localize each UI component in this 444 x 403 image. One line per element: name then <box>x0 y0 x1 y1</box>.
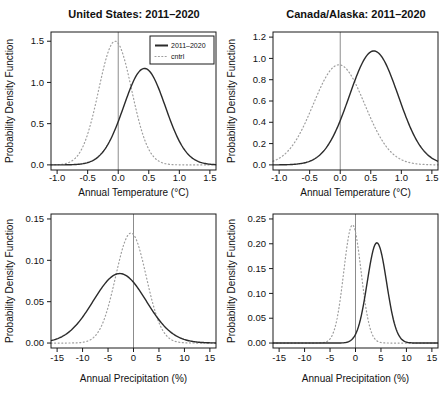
y-tick-label: 0.00 <box>248 337 267 348</box>
density-curve-solid <box>51 68 216 164</box>
panel-canada-alaska-temperature: Canada/Alaska: 2011–2020 -1.0-0.50.00.51… <box>222 0 444 200</box>
x-tick-label: 0.0 <box>334 172 347 183</box>
y-tick-label: 1.2 <box>253 31 266 42</box>
chart-canada-alaska-precipitation: -15-10-50510150.000.050.100.150.200.25An… <box>222 200 444 403</box>
y-tick-label: 0.10 <box>248 288 267 299</box>
x-tick-label: 15 <box>427 352 438 363</box>
y-tick-label: 0.6 <box>253 95 266 106</box>
x-tick-label: 1.0 <box>173 172 186 183</box>
x-tick-label: 10 <box>179 352 190 363</box>
x-tick-label: -0.5 <box>301 172 317 183</box>
chart-canada-alaska-temperature: -1.0-0.50.00.51.01.50.00.20.40.60.81.01.… <box>222 0 444 200</box>
legend-label: 2011–2020 <box>171 42 206 49</box>
x-tick-label: 1.5 <box>425 172 438 183</box>
y-tick-label: 0.8 <box>253 74 266 85</box>
x-tick-label: 0.0 <box>112 172 125 183</box>
density-curve-solid <box>273 51 438 165</box>
pdf-comparison-figure: United States: 2011–2020 -1.0-0.50.00.51… <box>0 0 444 403</box>
x-tick-label: 5 <box>156 352 161 363</box>
panel-us-temperature: United States: 2011–2020 -1.0-0.50.00.51… <box>0 0 222 200</box>
x-tick-label: -1.0 <box>271 172 287 183</box>
y-tick-label: 0.00 <box>26 337 45 348</box>
x-tick-label: -15 <box>272 352 286 363</box>
panel-canada-alaska-precipitation: -15-10-50510150.000.050.100.150.200.25An… <box>222 200 444 403</box>
y-axis-label: Probability Density Function <box>4 39 15 163</box>
x-tick-label: 1.5 <box>203 172 216 183</box>
y-tick-label: 0.0 <box>253 159 266 170</box>
y-tick-label: 0.10 <box>26 255 45 266</box>
x-tick-label: 0 <box>131 352 136 363</box>
plot-box <box>273 32 438 170</box>
y-tick-label: 0.0 <box>31 159 44 170</box>
y-tick-label: 0.4 <box>253 116 266 127</box>
y-tick-label: 0.5 <box>31 118 44 129</box>
x-axis-label: Annual Precipitation (%) <box>80 373 187 384</box>
x-tick-label: 1.0 <box>395 172 408 183</box>
x-axis-label: Annual Temperature (°C) <box>78 187 189 198</box>
y-tick-label: 1.5 <box>31 35 44 46</box>
y-tick-label: 0.20 <box>248 238 267 249</box>
panel-us-precipitation: -15-10-50510150.000.050.100.15Annual Pre… <box>0 200 222 403</box>
y-tick-label: 1.0 <box>253 53 266 64</box>
x-tick-label: -0.5 <box>79 172 95 183</box>
x-tick-label: 5 <box>378 352 383 363</box>
y-tick-label: 0.15 <box>248 263 267 274</box>
y-axis-label: Probability Density Function <box>226 219 237 343</box>
x-tick-label: -5 <box>104 352 112 363</box>
x-tick-label: -1.0 <box>49 172 65 183</box>
x-tick-label: -15 <box>50 352 64 363</box>
chart-us-temperature: -1.0-0.50.00.51.01.50.00.51.01.5Annual T… <box>0 0 222 200</box>
y-tick-label: 0.15 <box>26 213 45 224</box>
y-tick-label: 0.05 <box>248 312 267 323</box>
y-tick-label: 1.0 <box>31 77 44 88</box>
x-tick-label: 10 <box>401 352 412 363</box>
y-tick-label: 0.05 <box>26 296 45 307</box>
x-tick-label: 15 <box>205 352 216 363</box>
x-axis-label: Annual Precipitation (%) <box>302 373 409 384</box>
x-tick-label: 0 <box>353 352 358 363</box>
chart-us-precipitation: -15-10-50510150.000.050.100.15Annual Pre… <box>0 200 222 403</box>
x-tick-label: -10 <box>298 352 312 363</box>
x-tick-label: -10 <box>76 352 90 363</box>
x-tick-label: -5 <box>326 352 334 363</box>
x-axis-label: Annual Temperature (°C) <box>300 187 411 198</box>
y-axis-label: Probability Density Function <box>226 39 237 163</box>
x-tick-label: 0.5 <box>364 172 377 183</box>
y-tick-label: 0.2 <box>253 138 266 149</box>
y-axis-label: Probability Density Function <box>4 219 15 343</box>
x-tick-label: 0.5 <box>142 172 155 183</box>
legend-label: cntrl <box>171 53 185 60</box>
y-tick-label: 0.25 <box>248 213 267 224</box>
